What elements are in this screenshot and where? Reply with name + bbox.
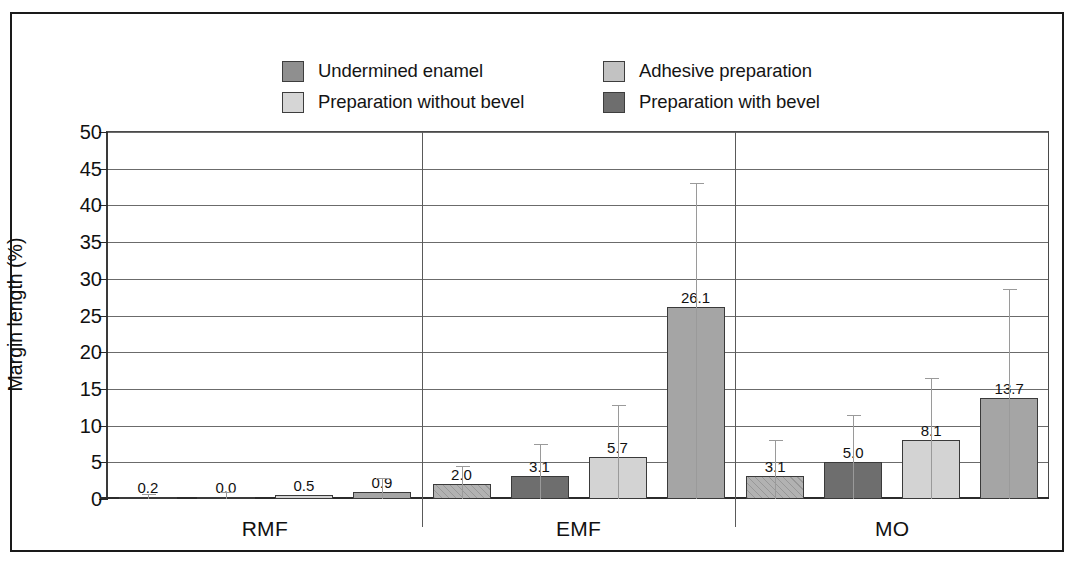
x-axis-group-label: RMF: [165, 517, 365, 541]
error-bar-cap: [847, 415, 861, 416]
error-bar: [540, 444, 541, 499]
chart-figure: Undermined enamel Adhesive preparation P…: [0, 0, 1075, 565]
error-bar-cap: [612, 405, 626, 406]
error-bar: [696, 183, 697, 499]
error-bar: [853, 415, 854, 499]
gridline: [108, 389, 1049, 390]
legend-entry-preparation-with-bevel: Preparation with bevel: [603, 89, 820, 115]
gridline: [108, 316, 1049, 317]
gridline: [108, 426, 1049, 427]
y-axis-tick-label: 35: [80, 231, 102, 254]
figure-border: Undermined enamel Adhesive preparation P…: [10, 12, 1064, 552]
gridline: [108, 242, 1049, 243]
error-bar: [931, 378, 932, 499]
legend-entry-adhesive-preparation: Adhesive preparation: [603, 58, 812, 84]
error-bar: [148, 494, 149, 499]
y-axis-tick-label: 45: [80, 157, 102, 180]
y-axis-tick-label: 50: [80, 121, 102, 144]
legend-label: Undermined enamel: [318, 60, 483, 82]
group-separator: [422, 132, 423, 527]
legend-label: Preparation with bevel: [639, 91, 820, 113]
error-bar: [618, 405, 619, 499]
plot-area: 05101520253035404550 0.20.00.50.92.03.15…: [106, 131, 1049, 499]
y-axis-tick-label: 15: [80, 377, 102, 400]
y-axis-tick-label: 5: [91, 451, 102, 474]
error-bar-cap: [925, 378, 939, 379]
y-axis-tick-label: 20: [80, 341, 102, 364]
error-bar-cap: [220, 492, 234, 493]
gridline: [108, 352, 1049, 353]
legend-label: Preparation without bevel: [318, 91, 524, 113]
y-axis-tick-label: 25: [80, 304, 102, 327]
error-bar-cap: [456, 466, 470, 467]
legend-entry-undermined-enamel: Undermined enamel: [282, 58, 483, 84]
error-bar: [1009, 289, 1010, 499]
gridline: [108, 132, 1049, 133]
legend-swatch-icon: [282, 92, 304, 113]
error-bar: [226, 492, 227, 499]
bar: 0.5: [275, 495, 333, 499]
chart-legend: Undermined enamel Adhesive preparation P…: [282, 58, 972, 120]
error-bar: [382, 478, 383, 499]
error-bar-cap: [534, 444, 548, 445]
gridline: [108, 279, 1049, 280]
legend-swatch-icon: [603, 61, 625, 82]
gridline: [108, 169, 1049, 170]
x-axis-group-label: EMF: [479, 517, 679, 541]
y-axis-title: Margin length (%): [0, 131, 30, 498]
y-axis-tick-label: 0: [91, 488, 102, 511]
legend-label: Adhesive preparation: [639, 60, 812, 82]
error-bar-cap: [1003, 289, 1017, 290]
y-axis-tick-label: 40: [80, 194, 102, 217]
error-bar-cap: [376, 478, 390, 479]
error-bar: [462, 466, 463, 499]
error-bar-cap: [142, 494, 156, 495]
legend-entry-preparation-without-bevel: Preparation without bevel: [282, 89, 524, 115]
plot-right-edge: [1048, 132, 1049, 499]
error-bar-cap: [690, 183, 704, 184]
y-axis-tick-label: 30: [80, 267, 102, 290]
x-axis-group-label: MO: [792, 517, 992, 541]
gridline: [108, 205, 1049, 206]
error-bar-cap: [769, 440, 783, 441]
bar-value-label: 0.5: [293, 477, 314, 494]
y-axis-tick-label: 10: [80, 414, 102, 437]
group-separator: [735, 132, 736, 527]
error-bar: [775, 440, 776, 499]
legend-swatch-icon: [603, 92, 625, 113]
legend-swatch-icon: [282, 61, 304, 82]
